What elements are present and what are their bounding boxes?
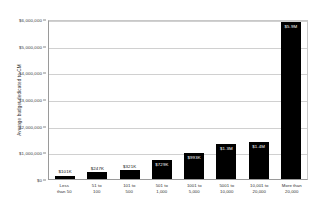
y-axis-label: $6,000,000 [19, 18, 42, 23]
bar-slot: $101K [49, 21, 81, 179]
x-axis-label: Lessthan 50 [48, 183, 81, 195]
bar-slot: $993K [178, 21, 210, 179]
y-axis-tick [43, 180, 46, 181]
y-axis-tick-labels: $6,000,000$5,000,000$4,000,000$3,000,000… [0, 20, 46, 180]
x-axis-label: 501 to1,000 [146, 183, 179, 195]
bar-value-label: $321K [123, 165, 136, 169]
x-axis-tick-labels: Lessthan 5051 to100101 to500501 to1,0001… [48, 183, 308, 195]
y-axis-tick [43, 73, 46, 74]
y-axis-label: $5,000,000 [19, 44, 42, 49]
bar[interactable]: $101K [55, 176, 75, 179]
y-axis-tick [43, 46, 46, 47]
plot-area: $101K$247K$321K$729K$993K$1.3M$1.4M$5.9M [48, 20, 308, 180]
bar[interactable]: $247K [87, 172, 107, 179]
bar-value-label: $729K [155, 163, 168, 167]
bar-value-label: $993K [188, 156, 201, 160]
y-axis-tick [43, 126, 46, 127]
y-axis-label: $4,000,000 [19, 71, 42, 76]
bar-value-label: $5.9M [285, 25, 298, 29]
x-axis-label: 1001 to5,000 [178, 183, 211, 195]
y-axis-tick [43, 20, 46, 21]
x-axis-label: 10,001 to20,000 [243, 183, 276, 195]
x-axis-label: 51 to100 [81, 183, 114, 195]
y-axis-label: $1,000,000 [19, 151, 42, 156]
y-axis-label: $2,000,000 [19, 124, 42, 129]
bar[interactable]: $729K [152, 160, 172, 179]
bar-series: $101K$247K$321K$729K$993K$1.3M$1.4M$5.9M [49, 21, 307, 179]
bar-slot: $247K [81, 21, 113, 179]
bar-value-label: $1.4M [252, 145, 265, 149]
bar-value-label: $101K [59, 170, 72, 174]
bar[interactable]: $1.3M [216, 144, 236, 179]
bar[interactable]: $5.9M [281, 22, 301, 179]
bar-value-label: $247K [91, 167, 104, 171]
y-axis-tick [43, 153, 46, 154]
bar[interactable]: $1.4M [249, 142, 269, 179]
bar-slot: $1.4M [243, 21, 275, 179]
y-axis-tick [43, 100, 46, 101]
y-axis-label: $3,000,000 [19, 98, 42, 103]
x-axis-label: More than20,000 [276, 183, 309, 195]
bar-slot: $321K [114, 21, 146, 179]
y-axis-label: $0 [37, 178, 42, 183]
bar-slot: $5.9M [275, 21, 307, 179]
bar-value-label: $1.3M [220, 147, 233, 151]
bar-slot: $729K [146, 21, 178, 179]
bar[interactable]: $321K [120, 170, 140, 179]
bar[interactable]: $993K [184, 153, 204, 179]
bar-slot: $1.3M [210, 21, 242, 179]
bar-chart: Average budget dedicated to CM $6,000,00… [0, 0, 322, 212]
x-axis-label: 5001 to10,000 [211, 183, 244, 195]
x-axis-label: 101 to500 [113, 183, 146, 195]
